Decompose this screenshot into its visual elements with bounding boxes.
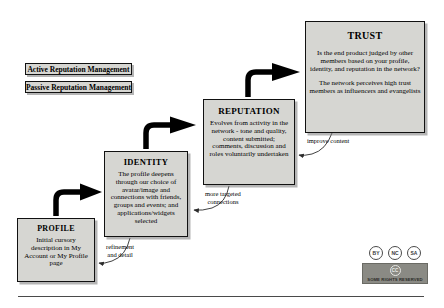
cc-icon-row: BY NC SA [362, 246, 428, 260]
bottom-divider [18, 296, 424, 297]
arrow-reputation-to-trust [248, 63, 300, 97]
caption-improve-content-line1: improve content [307, 137, 349, 145]
creative-commons-badge: BY NC SA CC SOME RIGHTS RESERVED [362, 246, 428, 284]
stage-body-reputation: Evolves from activity in the network - t… [207, 120, 291, 159]
stage-box-trust: TRUST Is the end product judged by other… [305, 21, 425, 133]
stage-title-identity: IDENTITY [108, 157, 184, 167]
caption-more-targeted-line2: connections [205, 198, 241, 206]
stage-body-profile: Initial cursory description in My Accoun… [21, 237, 91, 268]
legend-active-reputation-management: Active Reputation Management [25, 63, 132, 75]
arrow-identity-to-reputation [146, 117, 196, 150]
stage-title-profile: PROFILE [21, 224, 91, 233]
cc-logo-icon: CC [390, 265, 401, 276]
stage-body-identity: The profile deepens through our choice o… [108, 171, 184, 226]
stage-body-trust: Is the end product judged by other membe… [309, 50, 421, 73]
stage-box-profile: PROFILE Initial cursory description in M… [17, 218, 95, 282]
caption-more-targeted-line1: more targeted [205, 190, 241, 198]
cc-sa-icon: SA [407, 246, 421, 260]
cc-by-icon: BY [369, 246, 383, 260]
diagram-canvas: Active Reputation Management Passive Rep… [0, 0, 444, 308]
cc-banner-label: SOME RIGHTS RESERVED [363, 277, 427, 282]
stage-body-secondary-trust: The network perceives high trust members… [309, 80, 421, 96]
cc-license-banner: CC SOME RIGHTS RESERVED [362, 263, 428, 284]
arrow-profile-to-identity [56, 184, 102, 217]
caption-improve-content: improve content [307, 137, 349, 145]
caption-refinement-line1: refinement [106, 243, 134, 251]
stage-box-identity: IDENTITY The profile deepens through our… [104, 151, 188, 237]
stage-box-reputation: REPUTATION Evolves from activity in the … [203, 99, 295, 185]
stage-title-reputation: REPUTATION [207, 106, 291, 116]
legend-passive-reputation-management: Passive Reputation Management [25, 81, 132, 93]
caption-refinement-line2: and detail [106, 251, 134, 259]
stage-title-trust: TRUST [309, 30, 421, 41]
caption-more-targeted-connections: more targeted connections [205, 190, 241, 206]
cc-nc-icon: NC [388, 246, 402, 260]
caption-refinement-and-detail: refinement and detail [106, 243, 134, 259]
